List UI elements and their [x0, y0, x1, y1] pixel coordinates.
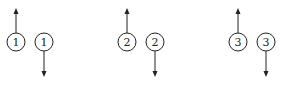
down-arrow-icon [264, 71, 269, 77]
node-right-down: 1 [35, 33, 53, 77]
node-label: 3 [263, 36, 270, 49]
down-arrow-icon [153, 71, 158, 77]
node-label: 3 [235, 36, 242, 49]
up-arrow-icon [125, 8, 130, 14]
node-pair-1: 1 1 [7, 8, 53, 77]
node-left-up: 1 [7, 8, 25, 51]
node-left-up: 2 [118, 8, 136, 51]
node-pair-2: 2 2 [118, 8, 164, 77]
node-right-down: 3 [257, 33, 275, 77]
node-label: 2 [152, 36, 159, 49]
node-label: 1 [41, 36, 48, 49]
node-label: 1 [13, 36, 20, 49]
spin-pair-diagram: 1 1 2 2 3 [0, 0, 282, 85]
node-left-up: 3 [229, 8, 247, 51]
down-arrow-icon [42, 71, 47, 77]
up-arrow-icon [14, 8, 19, 14]
up-arrow-icon [236, 8, 241, 14]
node-label: 2 [124, 36, 131, 49]
node-pair-3: 3 3 [229, 8, 275, 77]
node-right-down: 2 [146, 33, 164, 77]
